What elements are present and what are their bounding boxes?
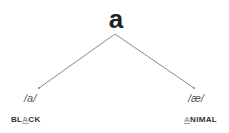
word-part: CK bbox=[28, 115, 40, 124]
branch-line-right bbox=[115, 34, 194, 88]
phoneme-right: /æ/ bbox=[188, 92, 204, 104]
word-part: BL bbox=[11, 115, 22, 124]
tree-lines bbox=[0, 0, 229, 133]
example-word-right: ANIMAL bbox=[184, 115, 217, 125]
example-word-left: BLACK bbox=[11, 115, 41, 125]
branch-line-left bbox=[39, 34, 115, 88]
word-part: NIMAL bbox=[190, 115, 217, 124]
node-dot-left bbox=[38, 87, 40, 89]
node-dot-right bbox=[193, 87, 195, 89]
phoneme-left: /a/ bbox=[24, 92, 36, 104]
